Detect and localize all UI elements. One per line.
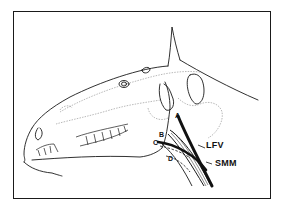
label-d: D — [168, 155, 173, 162]
horse-head-illustration — [0, 0, 288, 212]
label-smm: SMM — [215, 159, 237, 168]
label-a: A — [175, 112, 180, 119]
skull-outline — [56, 71, 222, 138]
label-lfv: LFV — [206, 141, 224, 150]
teeth — [36, 124, 128, 156]
label-b: B — [159, 131, 164, 138]
dashed-guides — [160, 146, 190, 172]
label-c: C — [153, 139, 158, 146]
linguofacial-vein — [158, 116, 212, 186]
head-outline — [24, 27, 258, 176]
